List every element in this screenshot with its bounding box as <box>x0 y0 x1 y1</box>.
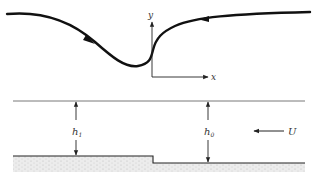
y-axis-label: y <box>147 10 154 20</box>
depth-downstream-label: h0 <box>204 126 214 138</box>
streamline-arrow-right-icon <box>199 16 209 22</box>
velocity-label: U <box>288 126 297 137</box>
depth-upstream-label: h1 <box>72 126 82 138</box>
streamline-panel: y x <box>7 10 310 82</box>
x-axis-label: x <box>211 72 216 82</box>
channel-panel: h1 h0 U <box>13 101 305 172</box>
streamline-curve <box>7 12 310 66</box>
flow-diagram: y x h1 h0 U <box>0 0 315 177</box>
bed-region <box>13 156 305 172</box>
